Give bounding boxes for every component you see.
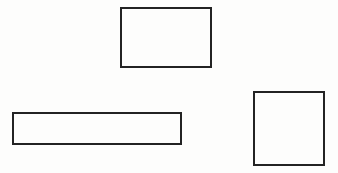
rectangle-right xyxy=(253,91,325,166)
rectangle-top xyxy=(120,7,212,68)
rectangle-bottom-left xyxy=(12,112,182,145)
diagram-canvas xyxy=(0,0,338,173)
